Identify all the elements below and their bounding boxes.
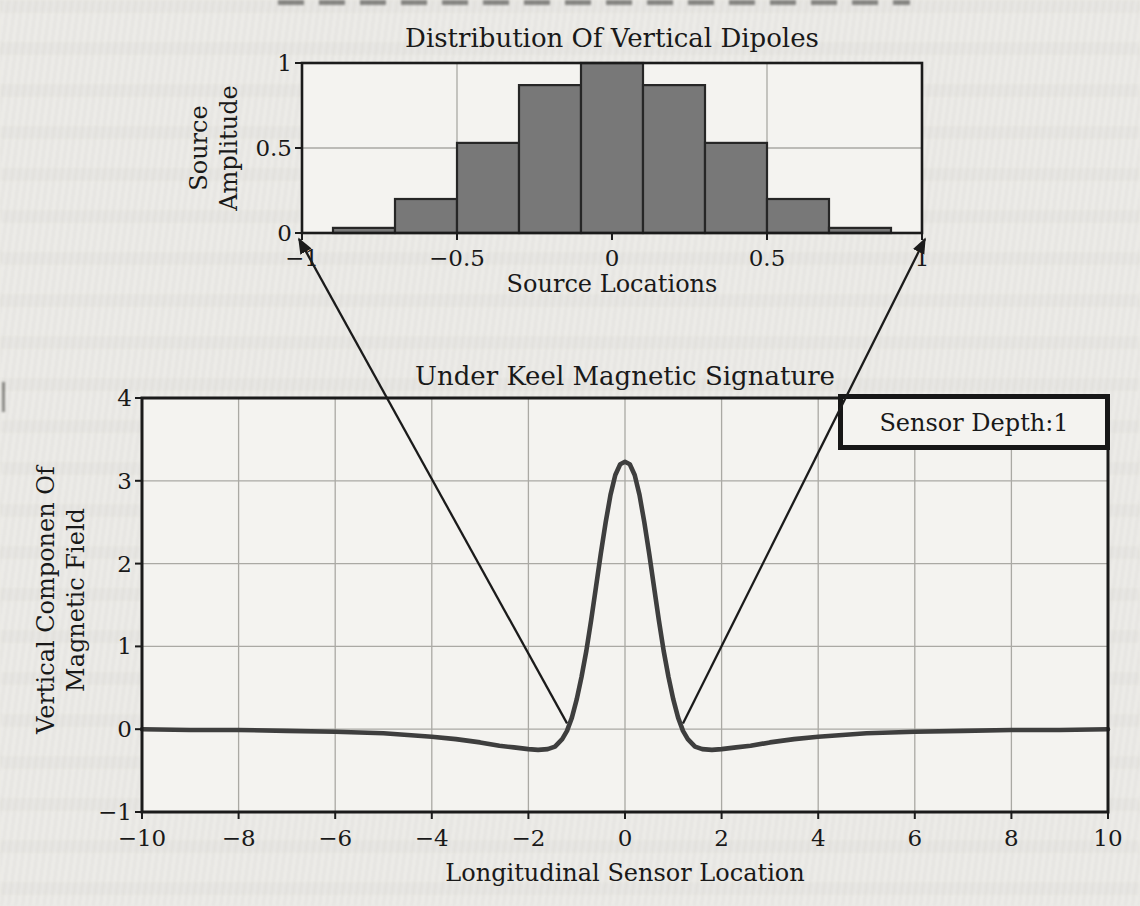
top-chart-ylabel-line-2: Amplitude [215,85,243,211]
x-tick-label: −10 [118,825,167,851]
x-tick-label: 6 [907,825,922,851]
top-chart-xlabel: Source Locations [507,270,718,298]
legend-label: Sensor Depth:1 [879,409,1068,437]
bottom-chart-ylabel-line-1: Vertical Componen Of [32,464,60,735]
histogram-bar [581,63,643,233]
legend: Sensor Depth:1 [841,397,1108,448]
y-tick-label: 4 [117,385,132,411]
underkeel-signature-plot: −10−8−6−4−20246810−101234 [98,385,1123,851]
x-tick-label: −8 [222,825,256,851]
x-tick-label: 0.5 [749,245,786,271]
x-tick-label: 1 [915,245,930,271]
x-tick-label: −0.5 [429,245,485,271]
y-tick-label: 1 [117,633,132,659]
x-tick-label: −6 [318,825,352,851]
histogram-bar [705,143,767,233]
x-tick-label: −2 [511,825,545,851]
underkeel-signature-chart: −10−8−6−4−20246810−101234 Under Keel Mag… [32,361,1123,887]
x-tick-label: 10 [1093,825,1122,851]
bottom-chart-title: Under Keel Magnetic Signature [415,361,835,391]
bottom-chart-xlabel: Longitudinal Sensor Location [445,859,804,887]
x-tick-label: 2 [714,825,729,851]
dipole-distribution-chart: −1−0.500.5100.51 Distribution Of Vertica… [185,23,929,298]
scanned-figure-page: −1−0.500.5100.51 Distribution Of Vertica… [0,0,1140,906]
histogram-bar [519,85,581,233]
top-chart-title: Distribution Of Vertical Dipoles [405,23,819,53]
histogram-bar [643,85,705,233]
y-tick-label: 1 [277,50,292,76]
y-tick-label: 2 [117,551,132,577]
x-tick-label: −4 [415,825,449,851]
y-tick-label: 0.5 [255,135,292,161]
histogram-bar [395,199,457,233]
x-tick-label: 4 [811,825,826,851]
x-tick-label: 8 [1004,825,1019,851]
y-tick-label: 0 [277,220,292,246]
y-tick-label: 0 [117,716,132,742]
y-tick-label: 3 [117,468,132,494]
x-tick-label: 0 [618,825,633,851]
bottom-chart-ylabel-line-2: Magnetic Field [62,508,90,692]
figure-canvas: −1−0.500.5100.51 Distribution Of Vertica… [0,0,1140,906]
top-chart-ylabel-line-1: Source [185,105,213,190]
histogram-bar [767,199,829,233]
y-tick-label: −1 [98,799,132,825]
dipole-distribution-plot: −1−0.500.5100.51 [255,50,929,271]
x-tick-label: 0 [605,245,620,271]
histogram-bar [457,143,519,233]
